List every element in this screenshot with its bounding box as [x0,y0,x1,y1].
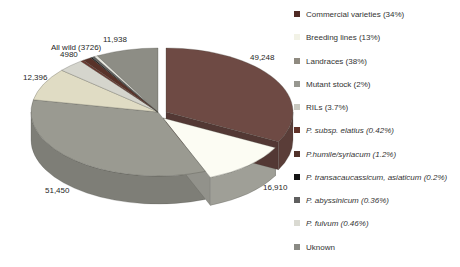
legend-swatch-icon [294,81,300,87]
legend-item-unknown: Uknown [294,243,460,266]
legend-swatch-icon [294,197,300,203]
legend-item-p-abyssinicum: P. abyssinicum (0.36%) [294,196,460,219]
legend-label: P. fulvum (0.46%) [306,219,369,228]
pie-value-label: 4980 [60,50,78,59]
legend-label: P. transacaucassicum, asiaticum (0.2%) [306,173,447,182]
legend-label: P. subsp. elatius (0.42%) [306,126,394,135]
legend-item-p-humile-syriacum: P.humile/syriacum (1.2%) [294,150,460,173]
legend-swatch-icon [294,244,300,250]
legend-swatch-icon [294,174,300,180]
legend-item-landraces: Landraces (38%) [294,57,460,80]
legend-label: P.humile/syriacum (1.2%) [306,150,396,159]
legend-item-p-transacaucassicum-asiaticum: P. transacaucassicum, asiaticum (0.2%) [294,173,460,196]
legend-swatch-icon [294,104,300,110]
legend-item-p-subsp-elatius: P. subsp. elatius (0.42%) [294,126,460,149]
legend-swatch-icon [294,151,300,157]
pie-value-label: 51,450 [45,186,69,195]
chart-legend: Commercial varieties (34%)Breeding lines… [294,10,460,266]
legend-item-breeding-lines: Breeding lines (13%) [294,33,460,56]
legend-label: Mutant stock (2%) [306,80,370,89]
legend-item-mutant-stock: Mutant stock (2%) [294,80,460,103]
legend-label: Breeding lines (13%) [306,33,380,42]
legend-swatch-icon [294,11,300,17]
legend-label: Uknown [306,243,335,252]
pie-value-label: 12,396 [23,73,47,82]
legend-item-rils: RILs (3.7%) [294,103,460,126]
legend-swatch-icon [294,127,300,133]
legend-item-p-fulvum: P. fulvum (0.46%) [294,219,460,242]
pie-chart-figure: 11,938All wild (3726)498012,39651,45016,… [0,0,460,267]
legend-swatch-icon [294,34,300,40]
pie-value-label: 49,248 [250,53,274,62]
legend-label: Commercial varieties (34%) [306,10,404,19]
legend-swatch-icon [294,58,300,64]
legend-item-commercial-varieties: Commercial varieties (34%) [294,10,460,33]
legend-swatch-icon [294,220,300,226]
legend-label: Landraces (38%) [306,57,367,66]
pie-value-label: 16,910 [263,183,287,192]
pie-value-label: 11,938 [103,35,127,44]
legend-label: P. abyssinicum (0.36%) [306,196,389,205]
legend-label: RILs (3.7%) [306,103,348,112]
